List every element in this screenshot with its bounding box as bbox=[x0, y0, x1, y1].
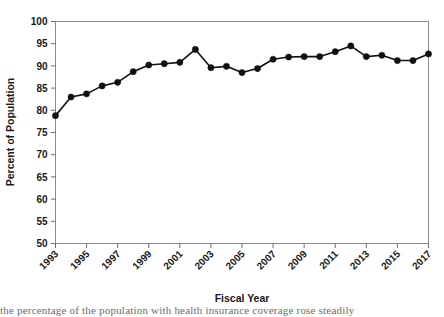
data-point bbox=[410, 57, 416, 63]
data-point bbox=[208, 65, 214, 71]
y-axis-title: Percent of Population bbox=[4, 78, 16, 187]
data-point bbox=[270, 56, 276, 62]
data-point bbox=[192, 46, 198, 52]
data-point bbox=[146, 62, 152, 68]
y-tick-label: 95 bbox=[36, 38, 48, 49]
figure-caption: the percentage of the population with he… bbox=[0, 303, 444, 317]
data-point bbox=[286, 54, 292, 60]
data-point bbox=[177, 59, 183, 65]
data-point bbox=[332, 49, 338, 55]
data-point bbox=[161, 61, 167, 67]
data-point bbox=[254, 65, 260, 71]
y-tick-label: 90 bbox=[36, 61, 48, 72]
data-point bbox=[115, 79, 121, 85]
y-tick-label: 80 bbox=[36, 105, 48, 116]
data-point bbox=[223, 63, 229, 69]
data-point bbox=[83, 91, 89, 97]
y-tick-label: 75 bbox=[36, 127, 48, 138]
data-point bbox=[425, 51, 431, 57]
data-point bbox=[99, 83, 105, 89]
data-point bbox=[394, 57, 400, 63]
data-point bbox=[301, 53, 307, 59]
chart-figure: 50556065707580859095100 1993199519971999… bbox=[0, 0, 444, 317]
y-tick-label: 65 bbox=[36, 172, 48, 183]
y-tick-label: 60 bbox=[36, 194, 48, 205]
plot-area-frame bbox=[56, 22, 429, 244]
y-tick-label: 50 bbox=[36, 238, 48, 249]
data-point bbox=[130, 69, 136, 75]
line-chart: 50556065707580859095100 1993199519971999… bbox=[0, 0, 444, 317]
y-tick-label: 55 bbox=[36, 216, 48, 227]
y-tick-label: 100 bbox=[31, 16, 48, 27]
figure-caption-text: the percentage of the population with he… bbox=[0, 303, 444, 317]
y-tick-label: 85 bbox=[36, 83, 48, 94]
data-point bbox=[348, 43, 354, 49]
data-point bbox=[363, 53, 369, 59]
data-point bbox=[68, 94, 74, 100]
data-point bbox=[379, 52, 385, 58]
data-point bbox=[239, 69, 245, 75]
data-point bbox=[317, 53, 323, 59]
data-point bbox=[52, 113, 58, 119]
y-tick-label: 70 bbox=[36, 149, 48, 160]
